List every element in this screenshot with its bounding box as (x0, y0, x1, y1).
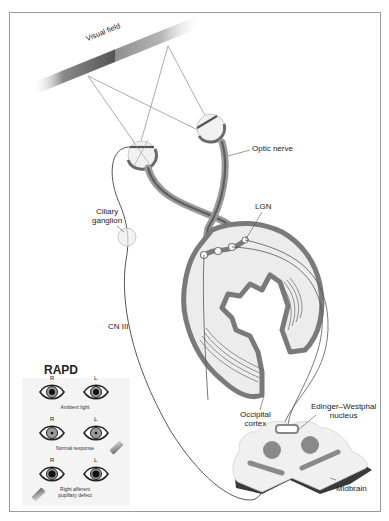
eye-icon (40, 467, 64, 481)
rapd-caption-normal: Normal response (50, 445, 100, 451)
rapd-eyes (0, 0, 389, 521)
eye-icon (40, 385, 64, 399)
rapd-row-ambient (40, 385, 108, 399)
rapd-caption-defect: Right afferent pupillary defect (50, 486, 100, 498)
eye-label-l: L (94, 375, 97, 381)
eye-icon (84, 467, 108, 481)
eye-icon (40, 426, 64, 440)
eye-label-r: R (50, 457, 54, 463)
eye-label-r: R (50, 416, 54, 422)
flashlight-icon (109, 441, 123, 455)
flashlight-icon (32, 487, 46, 501)
eye-icon (84, 385, 108, 399)
eye-label-r: R (50, 375, 54, 381)
eye-label-l: L (94, 457, 97, 463)
eye-label-l: L (94, 416, 97, 422)
eye-icon (84, 426, 108, 440)
rapd-caption-ambient: Ambient light (52, 404, 98, 410)
